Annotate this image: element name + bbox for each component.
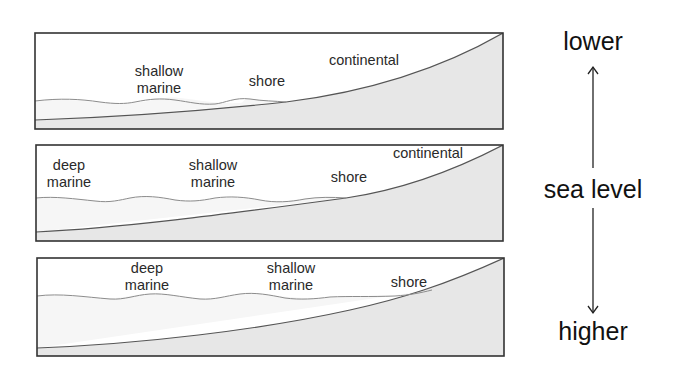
panel-2-shore-label: shore [324, 170, 374, 185]
panel-1-shallow-marine-label: shallow marine [128, 64, 190, 96]
panel-3-shore-label: shore [384, 275, 434, 290]
scale-sea-level-label: sea level [526, 176, 660, 202]
panel-3-shallow-marine-label: shallow marine [260, 261, 322, 293]
scale-higher-label: higher [546, 318, 640, 344]
scale-lower-label: lower [546, 28, 640, 54]
sea-level-diagram: shallow marine shore continental deep ma… [0, 0, 677, 370]
panel-2-continental-label: continental [382, 146, 474, 161]
panel-1-continental-label: continental [318, 53, 410, 68]
panel-2-shallow-marine-label: shallow marine [182, 158, 244, 190]
panel-1-shore-label: shore [242, 74, 292, 89]
panel-3-deep-marine-label: deep marine [116, 261, 178, 293]
panel-2-deep-marine-label: deep marine [38, 158, 100, 190]
